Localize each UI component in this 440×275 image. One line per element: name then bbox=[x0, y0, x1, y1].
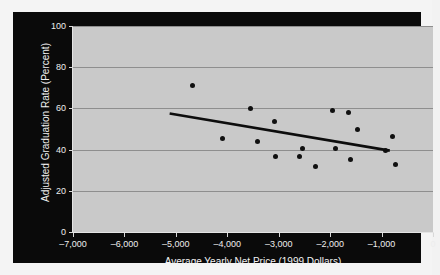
plot-area bbox=[73, 26, 433, 232]
x-tick-mark bbox=[73, 233, 74, 237]
trend-line bbox=[73, 26, 433, 232]
data-point bbox=[330, 108, 335, 113]
data-point bbox=[313, 164, 318, 169]
x-axis-title: Average Yearly Net Price (1999 Dollars) bbox=[73, 256, 433, 267]
gridline bbox=[73, 150, 433, 151]
data-point bbox=[383, 148, 388, 153]
x-tick-mark bbox=[433, 233, 434, 237]
y-tick-label: 0 bbox=[32, 228, 66, 237]
y-tick-mark bbox=[69, 67, 73, 68]
gridline bbox=[73, 108, 433, 109]
data-point bbox=[273, 154, 278, 159]
data-point bbox=[346, 110, 351, 115]
data-point bbox=[190, 83, 195, 88]
x-tick-mark bbox=[227, 233, 228, 237]
y-tick-mark bbox=[69, 150, 73, 151]
data-point bbox=[348, 157, 353, 162]
data-point bbox=[300, 146, 305, 151]
x-tick-mark bbox=[330, 233, 331, 237]
y-tick-mark bbox=[69, 191, 73, 192]
x-tick-mark bbox=[279, 233, 280, 237]
y-axis-title: Adjusted Graduation Rate (Percent) bbox=[40, 28, 51, 218]
data-point bbox=[248, 106, 253, 111]
y-tick-mark bbox=[69, 26, 73, 27]
x-tick-label: 0 bbox=[403, 239, 440, 249]
data-point bbox=[390, 134, 395, 139]
data-point bbox=[355, 127, 360, 132]
data-point bbox=[297, 154, 302, 159]
y-axis-line bbox=[72, 26, 73, 233]
x-axis-line bbox=[72, 232, 434, 233]
data-point bbox=[272, 119, 277, 124]
y-tick-mark bbox=[69, 108, 73, 109]
gridline bbox=[73, 191, 433, 192]
data-point bbox=[255, 139, 260, 144]
data-point bbox=[220, 136, 225, 141]
x-tick-mark bbox=[176, 233, 177, 237]
x-tick-mark bbox=[124, 233, 125, 237]
chart-panel: 020406080100 –7,000–6,000–5,000–4,000–3,… bbox=[13, 12, 421, 263]
x-tick-mark bbox=[382, 233, 383, 237]
data-point bbox=[393, 162, 398, 167]
gridline bbox=[73, 67, 433, 68]
gridline bbox=[73, 26, 433, 27]
